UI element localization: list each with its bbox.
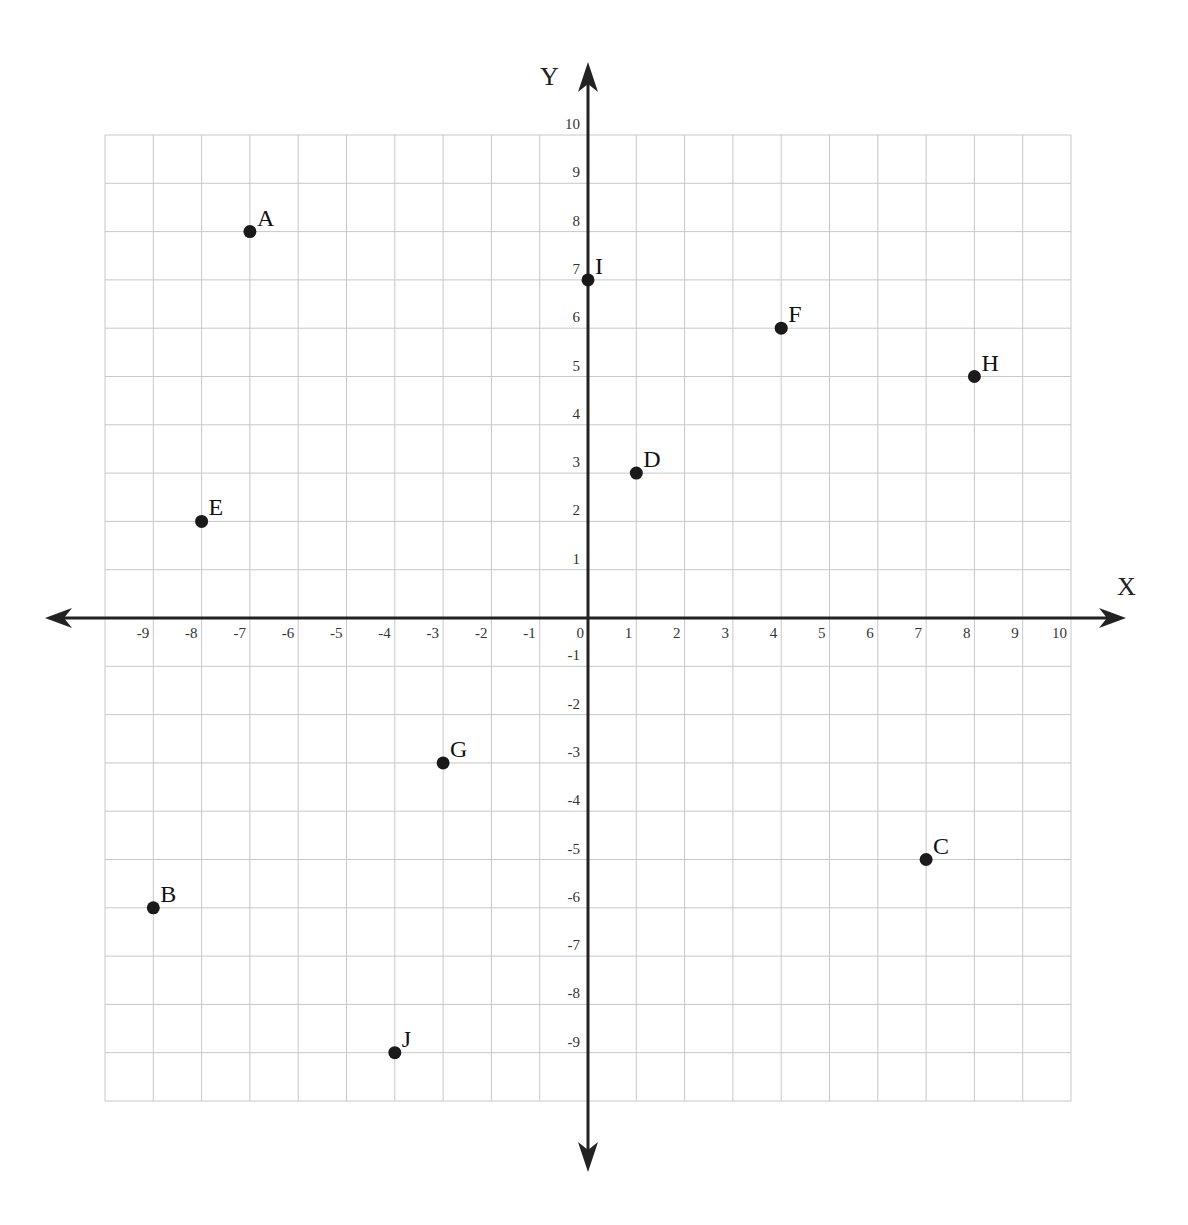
point-label: D xyxy=(643,446,660,472)
point-j: J xyxy=(388,1026,411,1060)
point-marker-icon xyxy=(630,467,643,480)
x-tick-label: 10 xyxy=(1052,625,1067,641)
x-tick-label: 1 xyxy=(625,625,633,641)
x-tick-label: 0 xyxy=(577,625,585,641)
point-h: H xyxy=(968,350,999,384)
x-tick-label: 8 xyxy=(963,625,971,641)
y-tick-label: 10 xyxy=(565,116,580,132)
point-marker-icon xyxy=(147,901,160,914)
y-tick-label: 8 xyxy=(573,213,581,229)
point-label: F xyxy=(788,301,801,327)
point-marker-icon xyxy=(388,1046,401,1059)
coordinate-plane: Y X -9-8-7-6-5-4-3-2-1012345678910 10987… xyxy=(0,0,1188,1225)
point-label: A xyxy=(257,205,275,231)
point-label: B xyxy=(160,881,176,907)
x-tick-label: -1 xyxy=(523,625,536,641)
x-tick-label: -6 xyxy=(282,625,295,641)
point-marker-icon xyxy=(243,225,256,238)
point-label: J xyxy=(402,1026,411,1052)
point-d: D xyxy=(630,446,661,480)
x-tick-labels: -9-8-7-6-5-4-3-2-1012345678910 xyxy=(137,625,1067,641)
y-tick-label: -6 xyxy=(568,889,581,905)
x-tick-label: 9 xyxy=(1011,625,1019,641)
point-marker-icon xyxy=(775,322,788,335)
point-label: C xyxy=(933,833,949,859)
x-tick-label: -7 xyxy=(233,625,246,641)
y-axis-label: Y xyxy=(540,62,559,91)
x-tick-label: -9 xyxy=(137,625,150,641)
x-tick-label: -3 xyxy=(427,625,440,641)
axes: Y X xyxy=(45,62,1136,1172)
point-marker-icon xyxy=(195,515,208,528)
y-tick-label: -4 xyxy=(568,792,581,808)
y-tick-label: -3 xyxy=(568,744,581,760)
y-tick-label: 6 xyxy=(573,309,581,325)
y-tick-labels: 10987654321-1-2-3-4-5-6-7-8-9 xyxy=(565,116,581,1050)
x-tick-label: 6 xyxy=(866,625,874,641)
x-tick-label: 4 xyxy=(770,625,778,641)
y-tick-label: -7 xyxy=(568,937,581,953)
point-marker-icon xyxy=(968,370,981,383)
x-tick-label: 2 xyxy=(673,625,681,641)
point-a: A xyxy=(243,205,275,239)
y-tick-label: 4 xyxy=(573,406,581,422)
y-tick-label: 3 xyxy=(573,454,581,470)
x-tick-label: -4 xyxy=(378,625,391,641)
y-tick-label: -8 xyxy=(568,985,581,1001)
point-label: E xyxy=(209,494,224,520)
point-i: I xyxy=(582,253,604,287)
x-axis-label: X xyxy=(1117,572,1136,601)
y-tick-label: 9 xyxy=(573,164,581,180)
y-tick-label: -5 xyxy=(568,841,581,857)
point-marker-icon xyxy=(920,853,933,866)
x-tick-label: 7 xyxy=(915,625,923,641)
point-c: C xyxy=(920,833,950,867)
point-marker-icon xyxy=(437,756,450,769)
y-tick-label: 7 xyxy=(573,261,581,277)
point-label: H xyxy=(981,350,998,376)
x-tick-label: -2 xyxy=(475,625,488,641)
point-marker-icon xyxy=(582,273,595,286)
y-tick-label: 1 xyxy=(573,551,581,567)
x-tick-label: 3 xyxy=(721,625,729,641)
point-g: G xyxy=(437,736,468,770)
point-b: B xyxy=(147,881,177,915)
y-tick-label: 5 xyxy=(573,358,581,374)
point-label: I xyxy=(595,253,603,279)
point-f: F xyxy=(775,301,802,335)
y-tick-label: -9 xyxy=(568,1034,581,1050)
point-e: E xyxy=(195,494,223,528)
point-label: G xyxy=(450,736,467,762)
y-tick-label: -2 xyxy=(568,696,581,712)
y-tick-label: 2 xyxy=(573,502,581,518)
y-tick-label: -1 xyxy=(568,647,581,663)
x-tick-label: -8 xyxy=(185,625,198,641)
x-tick-label: 5 xyxy=(818,625,826,641)
x-tick-label: -5 xyxy=(330,625,343,641)
